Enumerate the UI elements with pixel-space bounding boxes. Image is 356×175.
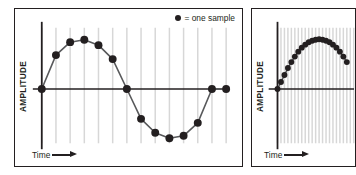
panel-right-high-sample-rate: AMPLITUDE Time: [251, 8, 356, 167]
x-axis-label-right-text: Time: [264, 151, 282, 159]
x-axis-label-right: Time: [264, 151, 310, 159]
x-axis-label-left: Time: [32, 151, 78, 159]
right-arrow-icon: [284, 151, 310, 158]
y-axis-label-right: AMPLITUDE: [257, 61, 265, 112]
filled-circle-icon: [175, 15, 181, 21]
legend: = one sample: [175, 14, 235, 22]
right-arrow-icon: [52, 151, 78, 158]
panel-left-low-sample-rate: AMPLITUDE Time = one sample: [14, 8, 243, 167]
left-chart-plot: [15, 9, 242, 166]
x-axis-label-left-text: Time: [32, 151, 50, 159]
legend-text: = one sample: [184, 14, 235, 22]
right-chart-plot: [252, 9, 355, 166]
y-axis-label-left: AMPLITUDE: [20, 61, 28, 112]
